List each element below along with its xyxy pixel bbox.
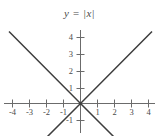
- x-tick-label-3: 3: [125, 107, 138, 117]
- y-tick-label-4: 4: [61, 32, 73, 42]
- y-tick-label-1: 1: [61, 83, 73, 93]
- y-tick-label-3: 3: [61, 49, 73, 59]
- y-tick-label-2: 2: [61, 66, 73, 76]
- x-tick-label--3: -3: [22, 107, 37, 117]
- x-tick-label--2: -2: [39, 107, 54, 117]
- x-tick-label-4: 4: [142, 107, 155, 117]
- x-tick-label-2: 2: [108, 107, 121, 117]
- y-tick-label--1: -1: [58, 115, 73, 125]
- x-tick-label-1: 1: [91, 107, 104, 117]
- x-tick-label--4: -4: [5, 107, 20, 117]
- figure-container: y = |x| -4 -3 -2 -1: [0, 0, 159, 136]
